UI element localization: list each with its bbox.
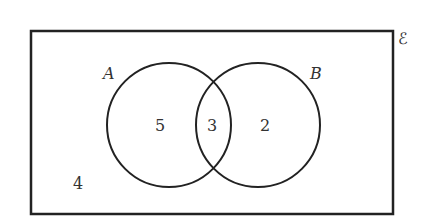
intersection-value: 3 <box>207 116 217 135</box>
only-b-value: 2 <box>260 116 270 135</box>
only-a-value: 5 <box>155 116 165 135</box>
set-a-label: A <box>101 64 115 83</box>
venn-diagram: ℰ A B 5 3 2 4 <box>0 0 430 224</box>
outside-value: 4 <box>73 174 83 193</box>
set-b-label: B <box>309 64 322 83</box>
universal-set-symbol: ℰ <box>398 29 408 48</box>
